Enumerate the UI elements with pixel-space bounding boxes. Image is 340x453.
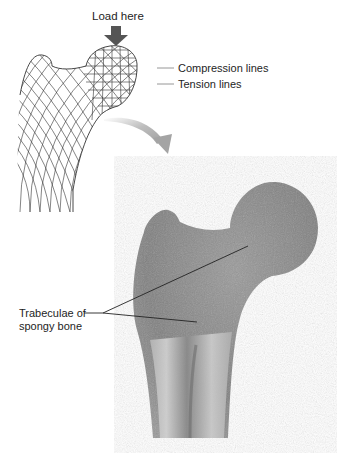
load-arrow-icon [104,26,128,46]
curved-arrow-icon [104,118,172,154]
trabeculae-label-line1: Trabeculae of [19,307,86,319]
femur-photo [133,182,318,438]
legend-tension-label: Tension lines [178,78,242,90]
legend-compression-label: Compression lines [178,62,268,74]
mesh-femur-illustration [0,10,150,212]
femur-diagram [0,0,340,453]
load-here-label: Load here [92,10,144,22]
trabeculae-label-line2: spongy bone [19,320,82,332]
